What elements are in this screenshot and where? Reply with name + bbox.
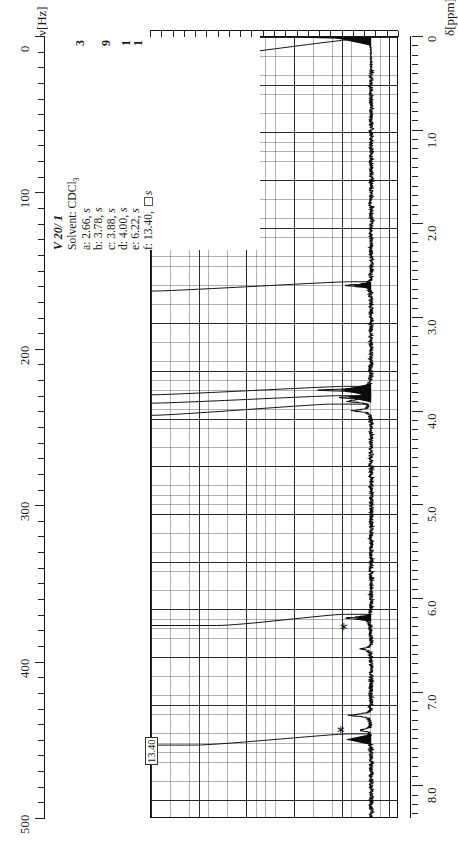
ppm-tick-minor bbox=[412, 645, 418, 646]
ppm-tick-minor bbox=[412, 701, 418, 702]
hz-tick-label: 500 bbox=[18, 814, 33, 834]
hz-tick-minor bbox=[38, 583, 45, 584]
ppm-tick-minor bbox=[412, 345, 418, 346]
hz-tick-minor bbox=[38, 67, 45, 68]
ppm-tick-minor bbox=[412, 55, 418, 56]
hz-tick-minor bbox=[38, 239, 45, 240]
hz-tick-minor bbox=[38, 536, 45, 537]
integral-scale-tick bbox=[195, 31, 196, 37]
hz-tick-minor bbox=[38, 161, 45, 162]
integral-step bbox=[151, 396, 369, 403]
ppm-tick-minor bbox=[412, 776, 418, 777]
ppm-tick-major bbox=[412, 223, 423, 224]
hz-tick-minor bbox=[38, 255, 45, 256]
assignment-shift: 13.40, bbox=[142, 208, 155, 240]
hz-tick-minor bbox=[38, 114, 45, 115]
hz-tick-minor bbox=[38, 724, 45, 725]
integral-scale bbox=[150, 30, 398, 31]
ppm-tick-minor bbox=[412, 233, 418, 234]
ppm-tick-minor bbox=[412, 514, 418, 515]
integral-scale-tick bbox=[353, 31, 354, 37]
integral-scale-tick bbox=[173, 31, 174, 37]
ppm-tick-minor bbox=[412, 654, 418, 655]
hz-tick-minor bbox=[38, 599, 45, 600]
hz-tick-minor bbox=[38, 474, 45, 475]
ppm-tick-minor bbox=[412, 270, 418, 271]
ppm-tick-minor bbox=[412, 251, 418, 252]
ppm-tick-major bbox=[412, 130, 423, 131]
ppm-axis-caption: δ[ppm] bbox=[440, 0, 458, 36]
ppm-tick-minor bbox=[412, 364, 418, 365]
ppm-tick-minor bbox=[412, 617, 418, 618]
ppm-tick-minor bbox=[412, 73, 418, 74]
ppm-tick-minor bbox=[412, 102, 418, 103]
ppm-tick-minor bbox=[412, 738, 418, 739]
ppm-tick-minor bbox=[412, 383, 418, 384]
integral-step bbox=[151, 386, 369, 394]
hz-tick-minor bbox=[38, 364, 45, 365]
hz-tick-minor bbox=[38, 693, 45, 694]
ppm-tick-minor bbox=[412, 607, 418, 608]
hz-tick-label: 400 bbox=[18, 658, 33, 678]
integral-step bbox=[151, 282, 369, 291]
hz-axis-caption: ν[Hz] bbox=[32, 6, 50, 36]
hz-tick-minor bbox=[38, 52, 45, 53]
ppm-tick-minor bbox=[412, 766, 418, 767]
ppm-tick-minor bbox=[412, 720, 418, 721]
integral-scale-tick bbox=[308, 31, 309, 37]
integral-scale-tick bbox=[218, 31, 219, 37]
ppm-tick-minor bbox=[412, 532, 418, 533]
assignment-box-glyph bbox=[143, 197, 152, 206]
hz-tick-minor bbox=[38, 755, 45, 756]
integral-scale-tick bbox=[161, 31, 162, 37]
hz-tick-minor bbox=[38, 396, 45, 397]
hz-tick-minor bbox=[38, 380, 45, 381]
solvent-star-marker-2: * bbox=[337, 726, 345, 741]
integral-step bbox=[151, 404, 369, 415]
hz-tick-minor bbox=[38, 552, 45, 553]
hz-axis bbox=[44, 36, 53, 818]
integral-value: 1 bbox=[131, 40, 146, 46]
hz-tick-minor bbox=[38, 646, 45, 647]
integral-scale-tick bbox=[240, 31, 241, 37]
solvent-star-marker-1: * bbox=[340, 623, 348, 638]
ppm-tick-major bbox=[412, 785, 423, 786]
integral-scale-tick bbox=[184, 31, 185, 37]
ppm-tick-minor bbox=[412, 373, 418, 374]
ppm-tick-minor bbox=[412, 261, 418, 262]
ppm-tick-minor bbox=[412, 205, 418, 206]
ppm-tick-minor bbox=[412, 748, 418, 749]
hz-tick-label: 300 bbox=[18, 502, 33, 522]
ppm-tick-major bbox=[412, 411, 423, 412]
hz-tick-minor bbox=[38, 145, 45, 146]
ppm-tick-major bbox=[412, 317, 423, 318]
integral-scale-tick bbox=[263, 31, 264, 37]
hz-tick-minor bbox=[38, 427, 45, 428]
hz-tick-major bbox=[35, 818, 45, 819]
ppm-tick-minor bbox=[412, 186, 418, 187]
integral-scale-tick bbox=[150, 31, 151, 37]
ppm-tick-minor bbox=[412, 467, 418, 468]
ppm-tick-minor bbox=[412, 476, 418, 477]
hz-tick-label: 100 bbox=[18, 189, 33, 209]
ppm-tick-minor bbox=[412, 420, 418, 421]
ppm-tick-minor bbox=[412, 560, 418, 561]
integral-scale-tick bbox=[375, 31, 376, 37]
ppm-tick-label: 6.0 bbox=[425, 600, 440, 616]
integral-scale-tick bbox=[285, 31, 286, 37]
hz-tick-minor bbox=[38, 130, 45, 131]
ppm-tick-minor bbox=[412, 279, 418, 280]
hz-tick-minor bbox=[38, 615, 45, 616]
hz-tick-major bbox=[35, 349, 45, 350]
ppm-tick-minor bbox=[412, 495, 418, 496]
ppm-tick-major bbox=[412, 692, 423, 693]
hz-tick-minor bbox=[38, 333, 45, 334]
ppm-tick-minor bbox=[412, 626, 418, 627]
integral-scale-tick bbox=[330, 31, 331, 37]
ppm-tick-minor bbox=[412, 795, 418, 796]
ppm-tick-minor bbox=[412, 682, 418, 683]
ppm-tick-minor bbox=[412, 158, 418, 159]
ppm-tick-minor bbox=[412, 120, 418, 121]
ppm-tick-minor bbox=[412, 673, 418, 674]
ppm-tick-minor bbox=[412, 523, 418, 524]
